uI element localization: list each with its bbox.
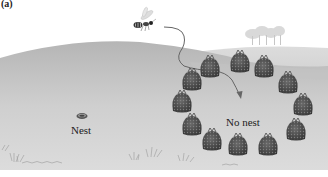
wasp-icon	[134, 7, 157, 31]
no-nest-label: No nest	[226, 116, 260, 128]
panel-label: (a)	[1, 0, 13, 9]
trees-icon	[245, 26, 285, 45]
nest-label: Nest	[71, 124, 91, 136]
wasp-nest-diagram: (a) Nest No nest	[0, 0, 328, 177]
nest-hole-icon	[77, 113, 88, 119]
scene-illustration	[0, 0, 328, 177]
